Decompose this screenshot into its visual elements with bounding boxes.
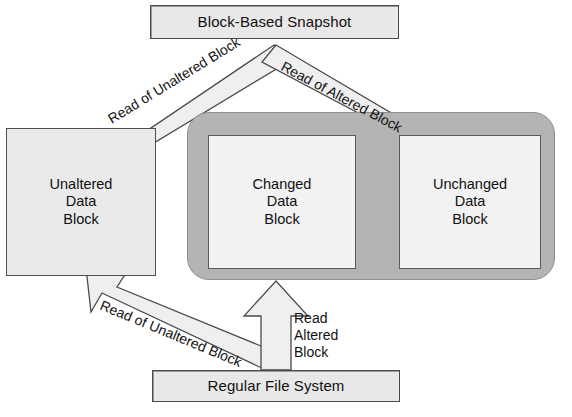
unaltered-data-block: Unaltered Data Block [6,128,156,276]
changed-data-block-line1: Changed [253,176,312,193]
regular-file-system-label: Regular File System [208,377,345,395]
arrow-label-fs-to-changed: Read Altered Block [294,310,338,360]
unchanged-data-block-label: Unchanged Data Block [433,176,507,227]
unaltered-data-block-line3: Block [50,211,113,228]
changed-data-block-line3: Block [253,211,312,228]
unchanged-data-block-line2: Data [433,193,507,210]
unaltered-data-block-line1: Unaltered [50,176,113,193]
unchanged-data-block-line1: Unchanged [433,176,507,193]
changed-data-block-line2: Data [253,193,312,210]
changed-data-block: Changed Data Block [208,135,356,269]
regular-file-system-box: Regular File System [152,370,400,402]
arrow-label-fs-to-changed-line2: Altered [294,327,338,344]
block-based-snapshot-box: Block-Based Snapshot [150,5,399,39]
arrow-label-fs-to-changed-line1: Read [294,310,338,327]
unchanged-data-block-line3: Block [433,211,507,228]
arrow-label-fs-to-changed-line3: Block [294,344,338,361]
changed-data-block-label: Changed Data Block [253,176,312,227]
block-based-snapshot-label: Block-Based Snapshot [198,13,352,31]
diagram-canvas: Block-Based Snapshot Unaltered Data Bloc… [0,0,572,417]
unaltered-data-block-label: Unaltered Data Block [50,176,113,227]
unaltered-data-block-line2: Data [50,193,113,210]
unchanged-data-block: Unchanged Data Block [399,135,541,269]
